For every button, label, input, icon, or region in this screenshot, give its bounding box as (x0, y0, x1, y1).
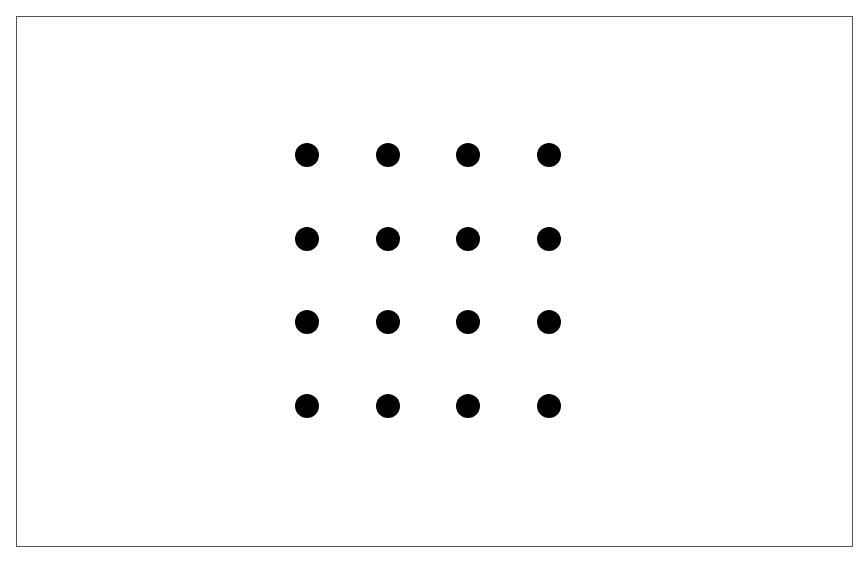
grid-dot (537, 394, 561, 418)
grid-dot (456, 394, 480, 418)
grid-dot (295, 394, 319, 418)
grid-dot (456, 143, 480, 167)
grid-dot (376, 394, 400, 418)
grid-dot (376, 143, 400, 167)
grid-dot (537, 227, 561, 251)
grid-dot (295, 227, 319, 251)
grid-dot (376, 227, 400, 251)
grid-dot (456, 227, 480, 251)
grid-dot (537, 310, 561, 334)
grid-dot (537, 143, 561, 167)
grid-dot (376, 310, 400, 334)
grid-dot (295, 143, 319, 167)
diagram-frame (16, 16, 853, 547)
